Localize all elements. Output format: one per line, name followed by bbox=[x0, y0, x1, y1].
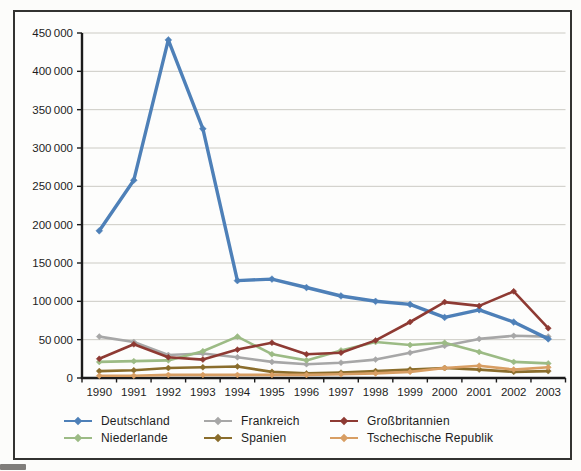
y-tick-label: 150 000 bbox=[32, 257, 73, 269]
x-tick-label: 2002 bbox=[501, 386, 527, 398]
data-point-marker bbox=[338, 360, 344, 366]
y-axis-labels: 050 000100 000150 000200 000250 000300 0… bbox=[32, 27, 73, 384]
x-tick-label: 1992 bbox=[156, 386, 182, 398]
legend-label-niederlande: Niederlande bbox=[101, 431, 168, 445]
data-point-marker bbox=[338, 293, 345, 300]
y-tick-label: 0 bbox=[67, 372, 73, 384]
legend-label-deutschland: Deutschland bbox=[101, 414, 170, 428]
x-tick-label: 2000 bbox=[432, 386, 458, 398]
legend-label-frankreich: Frankreich bbox=[241, 414, 300, 428]
legend-item-spanien: Spanien bbox=[204, 431, 330, 445]
scan-artifact bbox=[0, 464, 26, 470]
data-point-marker bbox=[200, 357, 206, 363]
x-tick-label: 1991 bbox=[121, 386, 147, 398]
data-point-marker bbox=[511, 333, 517, 339]
data-point-marker bbox=[373, 357, 379, 363]
data-point-marker bbox=[96, 334, 102, 340]
legend-line-sample-deutschland bbox=[64, 416, 92, 426]
data-point-marker bbox=[234, 364, 240, 370]
legend-line-sample-tschechische-republik bbox=[330, 433, 358, 443]
legend-label-grossbritannien: Großbritannien bbox=[367, 414, 450, 428]
x-tick-label: 1996 bbox=[294, 386, 320, 398]
y-tick-label: 400 000 bbox=[32, 65, 73, 77]
legend-item-tschechische-republik: Tschechische Republik bbox=[330, 431, 493, 445]
x-tick-label: 1995 bbox=[259, 386, 285, 398]
legend-item-deutschland: Deutschland bbox=[64, 414, 204, 428]
x-tick-label: 1997 bbox=[328, 386, 354, 398]
y-tick-label: 300 000 bbox=[32, 142, 73, 154]
legend-line-sample-niederlande bbox=[64, 433, 92, 443]
x-tick-label: 2003 bbox=[535, 386, 561, 398]
y-tick-label: 350 000 bbox=[32, 104, 73, 116]
x-tick-label: 1998 bbox=[363, 386, 389, 398]
data-point-marker bbox=[234, 354, 240, 360]
axes bbox=[77, 33, 566, 383]
data-point-marker bbox=[303, 357, 309, 363]
data-point-marker bbox=[234, 347, 240, 353]
data-point-marker bbox=[269, 276, 276, 283]
data-point-marker bbox=[234, 277, 241, 284]
legend-label-spanien: Spanien bbox=[241, 431, 286, 445]
data-point-marker bbox=[545, 364, 551, 370]
data-point-marker bbox=[476, 363, 482, 369]
y-tick-label: 250 000 bbox=[32, 180, 73, 192]
x-tick-label: 1994 bbox=[225, 386, 251, 398]
data-point-marker bbox=[131, 358, 137, 364]
legend-label-tschechische-republik: Tschechische Republik bbox=[367, 431, 493, 445]
data-point-marker bbox=[511, 359, 517, 365]
y-tick-label: 450 000 bbox=[32, 27, 73, 39]
legend-item-grossbritannien: Großbritannien bbox=[330, 414, 493, 428]
x-tick-label: 1993 bbox=[190, 386, 216, 398]
legend-item-niederlande: Niederlande bbox=[64, 431, 204, 445]
y-tick-label: 200 000 bbox=[32, 219, 73, 231]
x-tick-label: 2001 bbox=[466, 386, 492, 398]
y-tick-label: 100 000 bbox=[32, 295, 73, 307]
x-axis-labels: 1990199119921993199419951996199719981999… bbox=[86, 386, 561, 398]
data-point-marker bbox=[269, 340, 275, 346]
data-point-marker bbox=[303, 284, 310, 291]
line-chart: 050 000100 000150 000200 000250 000300 0… bbox=[0, 0, 581, 471]
series-deutschland bbox=[96, 37, 552, 343]
legend-line-sample-spanien bbox=[204, 433, 232, 443]
data-point-marker bbox=[442, 365, 448, 371]
data-point-marker bbox=[372, 298, 379, 305]
gridlines bbox=[82, 33, 566, 340]
series-frankreich bbox=[96, 333, 551, 367]
data-point-marker bbox=[200, 364, 206, 370]
data-point-marker bbox=[476, 349, 482, 355]
legend-item-frankreich: Frankreich bbox=[204, 414, 330, 428]
chart-legend: Deutschland Frankreich Großbritannien Ni… bbox=[64, 412, 493, 446]
data-point-marker bbox=[407, 342, 413, 348]
data-point-marker bbox=[165, 365, 171, 371]
data-point-marker bbox=[476, 336, 482, 342]
legend-line-sample-frankreich bbox=[204, 416, 232, 426]
scanned-figure-page: 050 000100 000150 000200 000250 000300 0… bbox=[0, 0, 581, 471]
series-grossbritannien bbox=[96, 288, 551, 362]
x-tick-label: 1990 bbox=[86, 386, 112, 398]
y-tick-label: 50 000 bbox=[39, 334, 73, 346]
data-point-marker bbox=[269, 359, 275, 365]
x-tick-label: 1999 bbox=[397, 386, 423, 398]
data-point-marker bbox=[407, 350, 413, 356]
legend-line-sample-grossbritannien bbox=[330, 416, 358, 426]
